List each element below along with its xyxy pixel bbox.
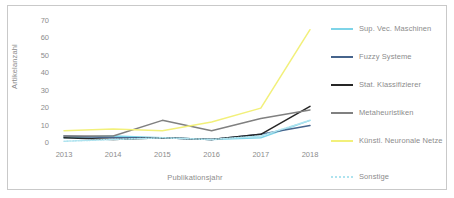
x-tick-label: 2016: [195, 150, 229, 159]
x-tick-label: 2017: [244, 150, 278, 159]
legend-item-label: Fuzzy Systeme: [359, 52, 451, 63]
legend-item[interactable]: Sup. Vec. Maschinen: [331, 24, 451, 35]
legend-item[interactable]: Fuzzy Systeme: [331, 52, 451, 63]
legend-item[interactable]: Metaheuristiken: [331, 108, 451, 119]
legend-color-swatch: [331, 84, 353, 86]
x-tick-label: 2014: [96, 150, 130, 159]
legend-color-swatch: [331, 112, 353, 114]
legend-item-label: Sup. Vec. Maschinen: [359, 24, 451, 35]
chart-figure: Artikelanzahl Publikationsjahr 010203040…: [0, 0, 454, 198]
legend-color-swatch: [331, 28, 353, 30]
x-tick-label: 2013: [47, 150, 81, 159]
legend-item[interactable]: Stat. Klassifizierer: [331, 80, 451, 91]
legend-item[interactable]: Künstl. Neuronale Netze: [331, 136, 451, 147]
legend-item-label: Stat. Klassifizierer: [359, 80, 451, 91]
x-tick-label: 2018: [293, 150, 327, 159]
legend-color-swatch: [331, 176, 353, 178]
legend-color-swatch: [331, 140, 353, 142]
legend-item[interactable]: Sonstige: [331, 172, 451, 183]
legend-color-swatch: [331, 56, 353, 58]
legend-item-label: Sonstige: [359, 172, 451, 183]
legend-item-label: Metaheuristiken: [359, 108, 451, 119]
legend-item-label: Künstl. Neuronale Netze: [359, 136, 451, 147]
x-tick-label: 2015: [145, 150, 179, 159]
